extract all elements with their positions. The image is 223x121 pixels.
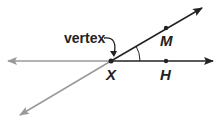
vertex-label: vertex bbox=[64, 30, 105, 46]
point-m-label: M bbox=[160, 32, 173, 49]
ray-xm bbox=[111, 8, 202, 61]
point-h bbox=[164, 59, 168, 63]
point-x bbox=[109, 59, 114, 64]
point-m bbox=[164, 26, 168, 30]
angle-diagram bbox=[0, 0, 223, 121]
ray-lower-left bbox=[20, 61, 111, 115]
point-x-label: X bbox=[106, 66, 116, 83]
angle-arc bbox=[136, 46, 140, 61]
point-h-label: H bbox=[160, 66, 171, 83]
